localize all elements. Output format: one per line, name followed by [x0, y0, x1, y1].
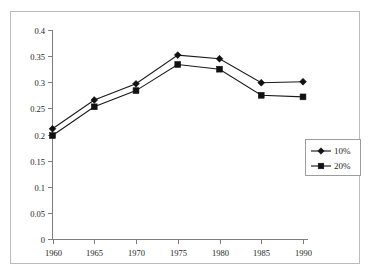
y-tick-label: 0.15: [30, 157, 45, 167]
y-tick-label: 0.1: [34, 183, 45, 193]
series-marker-diamond: [258, 79, 265, 86]
y-tick-label: 0: [41, 235, 45, 245]
x-tick-label: 1970: [128, 248, 145, 258]
legend-label: 20%: [334, 161, 351, 171]
x-tick-label: 1960: [45, 248, 62, 258]
series-marker-diamond: [49, 125, 56, 132]
series-marker-diamond: [133, 80, 140, 87]
series-marker-square: [91, 104, 97, 110]
y-axis-group: 00.050.10.150.20.250.30.350.4: [30, 26, 52, 245]
series-marker-diamond: [216, 55, 223, 62]
series-marker-square: [175, 62, 181, 68]
x-tick-label: 1985: [253, 248, 270, 258]
series-marker-square: [133, 88, 139, 94]
series-marker-square: [300, 94, 306, 100]
series-marker-diamond: [91, 97, 98, 104]
legend-label: 10%: [334, 146, 351, 156]
x-tick-marks: [54, 240, 304, 245]
x-tick-label: 1990: [295, 248, 312, 258]
y-tick-label: 0.3: [34, 78, 45, 88]
y-tick-label: 0.2: [34, 131, 45, 141]
chart-legend: 10%20%: [306, 140, 361, 176]
x-tick-labels: 1960196519701975198019851990: [45, 248, 312, 258]
y-tick-label: 0.05: [30, 209, 45, 219]
x-tick-label: 1975: [170, 248, 187, 258]
series-line: [53, 64, 304, 135]
line-chart: 00.050.10.150.20.250.30.350.4 1960196519…: [0, 0, 371, 276]
series-marker-diamond: [174, 52, 181, 59]
series-marker-diamond: [300, 78, 307, 85]
series-marker-square: [318, 163, 324, 169]
series-marker-square: [258, 92, 264, 98]
series-marker-square: [50, 133, 56, 139]
legend-box: [306, 140, 361, 176]
y-tick-labels: 00.050.10.150.20.250.30.350.4: [30, 26, 46, 245]
y-tick-label: 0.4: [34, 26, 45, 36]
series-layer: [49, 52, 306, 139]
y-tick-label: 0.35: [30, 52, 45, 62]
x-tick-label: 1980: [212, 248, 229, 258]
series-marker-square: [217, 66, 223, 72]
x-tick-label: 1965: [86, 248, 103, 258]
series-2: [50, 62, 306, 139]
x-axis-group: 1960196519701975198019851990: [45, 240, 312, 259]
y-tick-label: 0.25: [30, 104, 45, 114]
